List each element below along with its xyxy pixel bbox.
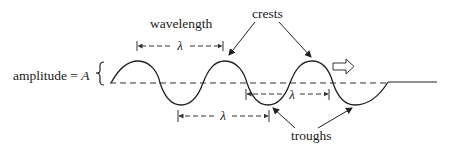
wave-diagram: amplitude = A wavelength λ λ λ crests tr… (0, 0, 449, 155)
crests-label: crests (252, 6, 283, 21)
wavelength-label: wavelength (150, 16, 212, 31)
lambda-symbol-middle: λ (288, 87, 295, 102)
propagation-direction-arrow-icon (333, 59, 354, 74)
lambda-symbol-bottom: λ (219, 108, 226, 123)
crest-arrow-right (279, 22, 311, 57)
troughs-label: troughs (291, 128, 332, 143)
trough-arrow-left (273, 108, 295, 128)
amplitude-label: amplitude = A (13, 68, 90, 83)
lambda-bracket-bottom: λ (178, 108, 269, 123)
amplitude-brace (96, 62, 104, 85)
trough-arrow-right (318, 108, 352, 128)
lambda-symbol-top: λ (176, 38, 183, 53)
lambda-bracket-top: λ (137, 38, 223, 53)
crest-arrow-left (229, 22, 255, 55)
